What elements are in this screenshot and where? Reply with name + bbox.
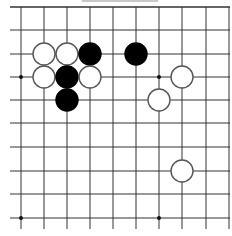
black-stone: [79, 43, 101, 65]
board-grid: [10, 7, 230, 229]
go-board[interactable]: [0, 0, 232, 236]
white-stone: [33, 66, 55, 88]
star-point: [19, 216, 23, 220]
star-point: [157, 216, 161, 220]
white-stone: [171, 66, 193, 88]
black-stone: [56, 66, 78, 88]
black-stone: [125, 43, 147, 65]
white-stone: [171, 160, 193, 182]
black-stone: [56, 89, 78, 111]
white-stone: [148, 89, 170, 111]
star-point: [157, 75, 161, 79]
white-stone: [79, 66, 101, 88]
white-stone: [33, 43, 55, 65]
white-stone: [56, 43, 78, 65]
star-point: [19, 75, 23, 79]
